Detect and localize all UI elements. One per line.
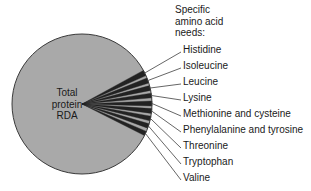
slice-label-lysine[interactable]: Lysine [183, 92, 212, 104]
legend-heading-line-2: amino acid [175, 16, 223, 28]
center-label-line-3: RDA [41, 110, 93, 122]
pie-chart-figure: Specific amino acid needs: Total protein… [0, 0, 311, 191]
slice-label-tryptophan[interactable]: Tryptophan [183, 156, 233, 168]
center-label-total-protein-rda: Total protein RDA [41, 87, 93, 122]
slice-label-methionine-and-cysteine[interactable]: Methionine and cysteine [183, 108, 291, 120]
slice-label-valine[interactable]: Valine [183, 172, 210, 184]
center-label-line-1: Total [41, 87, 93, 99]
slice-label-phenylalanine-and-tyrosine[interactable]: Phenylalanine and tyrosine [183, 124, 303, 136]
legend-heading-line-3: needs: [175, 27, 223, 39]
slice-label-threonine[interactable]: Threonine [183, 140, 228, 152]
legend-heading: Specific amino acid needs: [175, 4, 223, 39]
slice-label-leucine[interactable]: Leucine [183, 76, 218, 88]
leader-line-isoleucine [148, 68, 181, 81]
slice-label-isoleucine[interactable]: Isoleucine [183, 60, 228, 72]
leader-line-valine [145, 134, 181, 181]
center-label-line-2: protein [41, 99, 93, 111]
leader-line-lysine [151, 96, 181, 101]
legend-heading-line-1: Specific [175, 4, 223, 16]
leader-line-leucine [150, 84, 181, 88]
slice-label-histidine[interactable]: Histidine [183, 44, 221, 56]
